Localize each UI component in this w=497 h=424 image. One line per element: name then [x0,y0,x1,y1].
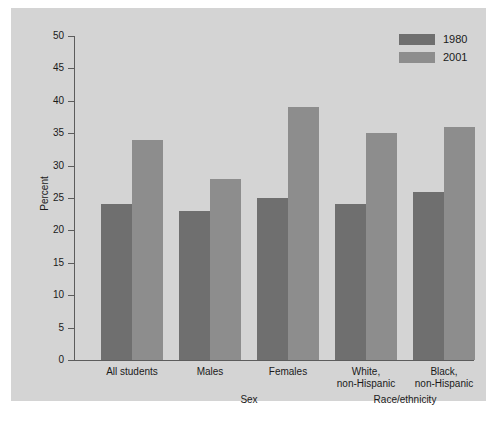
y-tick-label-wrap: 50 [11,31,64,41]
y-tick-label-wrap: 35 [11,128,64,138]
bar-2001-males [210,179,241,360]
y-tick-label: 10 [24,290,64,300]
y-tick-label-wrap: 20 [11,225,64,235]
y-tick-label: 40 [24,96,64,106]
y-tick-label: 35 [24,128,64,138]
y-tick-label: 0 [24,355,64,365]
y-tick-mark [68,230,74,231]
bar-1980-black-non-hispanic [413,192,444,360]
y-tick-label: 45 [24,63,64,73]
y-tick-mark [68,360,74,361]
bar-2001-all-students [132,140,163,360]
y-tick-label: 25 [24,193,64,203]
y-tick-label-wrap: 45 [11,63,64,73]
y-tick-mark [68,101,74,102]
chart-figure: Percent 05101520253035404550 All student… [0,0,497,424]
plot-area [75,36,473,360]
y-tick-mark [68,36,74,37]
x-axis-line [74,360,474,361]
y-tick-label-wrap: 30 [11,161,64,171]
y-tick-label: 15 [24,258,64,268]
bar-1980-white-non-hispanic [335,204,366,360]
y-tick-mark [68,133,74,134]
chart-panel: Percent 05101520253035404550 All student… [11,8,486,401]
y-tick-mark [68,295,74,296]
y-tick-mark [68,68,74,69]
legend-label-2001: 2001 [443,50,467,64]
y-tick-label: 30 [24,161,64,171]
bar-1980-males [179,211,210,360]
bar-2001-females [288,107,319,360]
y-tick-mark [68,198,74,199]
bar-2001-white-non-hispanic [366,133,397,360]
bar-2001-black-non-hispanic [444,127,475,360]
y-tick-label-wrap: 10 [11,290,64,300]
y-tick-label-wrap: 25 [11,193,64,203]
bar-1980-females [257,198,288,360]
y-tick-mark [68,263,74,264]
x-axis-label-4: Black, non-Hispanic [394,366,494,390]
bar-1980-all-students [101,204,132,360]
y-tick-mark [68,328,74,329]
y-tick-label: 20 [24,225,64,235]
legend-swatch-1980 [399,34,435,45]
y-tick-label-wrap: 5 [11,323,64,333]
y-tick-label-wrap: 0 [11,355,64,365]
y-tick-label: 50 [24,31,64,41]
legend-label-1980: 1980 [443,32,467,46]
legend-swatch-2001 [399,52,435,63]
x-axis-group-label-race-ethnicity: Race/ethnicity [335,394,475,405]
y-tick-mark [68,166,74,167]
x-axis-group-label-sex: Sex [179,394,319,405]
y-tick-label: 5 [24,323,64,333]
y-tick-label-wrap: 15 [11,258,64,268]
y-tick-label-wrap: 40 [11,96,64,106]
